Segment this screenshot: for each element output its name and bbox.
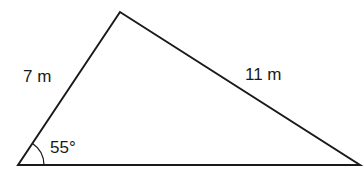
left-side-label: 7 m xyxy=(23,67,51,86)
triangle-diagram: 7 m 11 m 55° xyxy=(0,0,364,179)
right-side-label: 11 m xyxy=(245,65,282,84)
angle-arc xyxy=(33,144,45,166)
angle-label: 55° xyxy=(50,138,76,157)
